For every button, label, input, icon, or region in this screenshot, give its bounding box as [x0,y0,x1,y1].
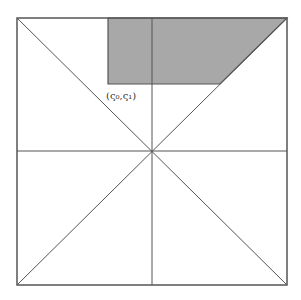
diagram-canvas [0,0,301,300]
shaded-region [108,18,287,84]
point-label: (ς₀,ς₁) [106,90,136,101]
